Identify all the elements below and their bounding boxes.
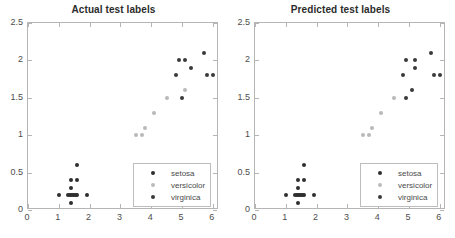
y-axis-tick-label: 2 [18,54,23,64]
data-point-versicolor [370,126,374,130]
y-axis-tick [28,60,32,61]
data-point-versicolor [165,96,169,100]
legend-dot-icon [151,183,155,187]
y-axis-tick-label: 1 [245,129,250,139]
data-point-virginica [413,58,417,62]
y-axis-tick [28,210,32,211]
data-point-virginica [410,88,414,92]
data-point-virginica [205,73,209,77]
legend-item-versicolor[interactable]: versicolor [366,179,432,191]
y-axis-tick [440,173,444,174]
y-axis-tick [213,98,217,99]
data-point-setosa [75,193,79,197]
x-axis-tick-label: 5 [179,212,184,222]
data-point-virginica [174,73,178,77]
page-title-actual: Actual test labels [0,4,227,15]
data-point-virginica [211,73,215,77]
data-point-setosa [302,163,306,167]
y-axis-tick [28,135,32,136]
y-axis-tick [440,210,444,211]
x-axis-tick-label: 1 [282,212,287,222]
legend-item-setosa[interactable]: setosa [139,167,205,179]
data-point-virginica [404,58,408,62]
data-point-setosa [85,193,89,197]
data-point-versicolor [143,126,147,130]
legend-dot-icon [151,195,155,199]
data-point-virginica [438,73,442,77]
legend-label-virginica: virginica [394,193,427,202]
legend-label-setosa: setosa [167,169,195,178]
x-axis-tick [317,23,318,27]
page-title-predicted: Predicted test labels [227,4,454,15]
x-axis-tick-label: 6 [436,212,441,222]
x-axis-tick-label: 0 [251,212,256,222]
x-axis-tick-label: 1 [55,212,60,222]
x-axis-tick [317,204,318,208]
y-axis-tick [28,173,32,174]
x-axis-tick [286,23,287,27]
data-point-setosa [75,178,79,182]
legend-label-versicolor: versicolor [394,181,432,190]
legend-dot-icon [378,195,382,199]
data-point-versicolor [152,111,156,115]
data-point-setosa [296,201,300,205]
legend-item-versicolor[interactable]: versicolor [139,179,205,191]
data-point-virginica [401,73,405,77]
x-axis-tick [59,23,60,27]
data-point-setosa [302,178,306,182]
y-axis-tick-label: 0.5 [10,167,23,177]
x-axis-tick [151,23,152,27]
data-point-virginica [183,58,187,62]
y-axis-tick-label: 2.5 [10,17,23,27]
data-point-setosa [69,178,73,182]
x-axis-tick [28,204,29,208]
x-axis-tick [90,204,91,208]
y-axis-tick-label: 2.5 [237,17,250,27]
y-axis-tick-label: 0 [18,204,23,214]
y-axis-tick [28,23,32,24]
x-axis-tick [90,23,91,27]
legend-item-virginica[interactable]: virginica [139,191,205,203]
y-axis-tick [440,60,444,61]
data-point-setosa [302,193,306,197]
data-point-setosa [296,178,300,182]
y-axis-tick [255,60,259,61]
legend-label-setosa: setosa [394,169,422,178]
x-axis-tick [286,204,287,208]
x-axis-tick-label: 0 [24,212,29,222]
data-point-virginica [180,96,184,100]
y-axis-tick [255,135,259,136]
y-axis-tick [213,210,217,211]
legend-marker-versicolor [366,183,394,187]
legend-dot-icon [151,171,155,175]
y-axis-tick [28,98,32,99]
x-axis-tick-label: 6 [209,212,214,222]
y-axis-tick [213,135,217,136]
data-point-versicolor [134,133,138,137]
data-point-virginica [177,58,181,62]
legend-label-versicolor: versicolor [167,181,205,190]
x-axis-tick [409,23,410,27]
data-point-setosa [69,186,73,190]
y-axis-tick [440,135,444,136]
legend-marker-setosa [139,171,167,175]
x-axis-tick [255,204,256,208]
legend-predicted: setosaversicolorvirginica [360,163,438,207]
y-axis-tick [440,23,444,24]
x-axis-tick [120,204,121,208]
data-point-setosa [57,193,61,197]
x-axis-tick [213,204,214,208]
y-axis-tick-label: 2 [245,54,250,64]
legend-item-virginica[interactable]: virginica [366,191,432,203]
data-point-virginica [413,66,417,70]
data-point-versicolor [392,96,396,100]
legend-marker-versicolor [139,183,167,187]
legend-item-setosa[interactable]: setosa [366,167,432,179]
x-axis-tick [347,23,348,27]
legend-dot-icon [378,171,382,175]
x-axis-tick-label: 4 [148,212,153,222]
data-point-versicolor [379,111,383,115]
y-axis-tick [255,210,259,211]
y-axis-tick [213,23,217,24]
x-axis-tick [59,204,60,208]
